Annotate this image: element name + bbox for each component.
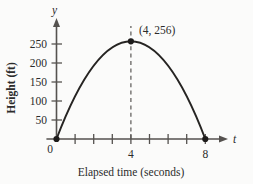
x-tick-label-4: 4 (128, 148, 134, 160)
y-axis-arrow-icon (53, 18, 60, 27)
x-tick-label-8: 8 (202, 148, 208, 160)
x-axis-arrow-icon (219, 136, 228, 143)
left-root-marker (53, 136, 59, 142)
y-tick-label-100: 100 (30, 95, 48, 107)
origin-label: 0 (47, 143, 53, 155)
y-tick-label-150: 150 (30, 76, 48, 88)
x-axis-title: Elapsed time (seconds) (78, 166, 185, 179)
x-axis-variable-label: t (233, 133, 237, 145)
plot-canvas: Height (ft) y t 250 200 150 100 50 4 8 (0, 0, 253, 184)
y-tick-label-200: 200 (30, 57, 48, 69)
parabola-trajectory-figure: Height (ft) y t 250 200 150 100 50 4 8 (0, 0, 253, 184)
vertex-annotation-label: (4, 256) (139, 24, 176, 37)
y-axis-title: Height (ft) (5, 62, 18, 114)
y-tick-label-250: 250 (30, 38, 48, 50)
vertex-marker (128, 38, 134, 44)
y-tick-label-50: 50 (36, 114, 48, 126)
right-root-marker (202, 136, 208, 142)
y-axis-variable-label: y (51, 4, 58, 17)
